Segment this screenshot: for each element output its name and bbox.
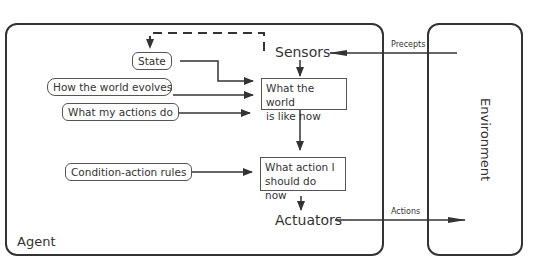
sensors-label: Sensors (275, 44, 330, 60)
agent-label: Agent (17, 234, 55, 249)
world-evolves-node: How the world evolves (47, 78, 172, 96)
world-now-line1: What the world (266, 81, 342, 109)
action-now-node: What action I should do now (260, 157, 346, 191)
state-node: State (132, 52, 172, 70)
connector-arrows (0, 0, 533, 274)
world-now-line2: is like now (266, 109, 342, 123)
actuators-label: Actuators (275, 212, 342, 228)
action-now-line2: should do now (265, 174, 341, 202)
percepts-label: Precepts (391, 40, 425, 49)
actions-do-node: What my actions do (62, 103, 179, 121)
action-now-line1: What action I (265, 160, 341, 174)
world-now-node: What the world is like now (261, 78, 347, 110)
actions-label: Actions (391, 207, 420, 216)
environment-label: Environment (478, 90, 493, 190)
condition-action-rules-node: Condition-action rules (65, 163, 192, 181)
